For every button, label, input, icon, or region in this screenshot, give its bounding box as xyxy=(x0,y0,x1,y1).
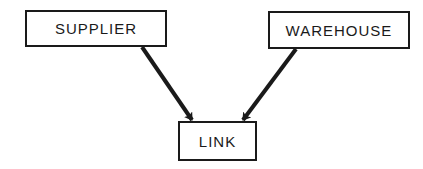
edge-warehouse-to-link-arrow xyxy=(243,49,296,120)
node-link: LINK xyxy=(178,121,257,161)
diagram-canvas: SUPPLIER WAREHOUSE LINK xyxy=(0,0,423,169)
node-warehouse: WAREHOUSE xyxy=(268,11,410,49)
edge-supplier-to-link-arrow xyxy=(142,47,192,120)
node-supplier: SUPPLIER xyxy=(25,10,167,47)
node-supplier-label: SUPPLIER xyxy=(55,20,137,37)
node-link-label: LINK xyxy=(199,133,236,150)
node-warehouse-label: WAREHOUSE xyxy=(286,22,393,39)
